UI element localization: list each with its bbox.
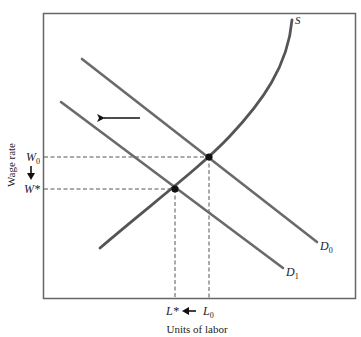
plot-frame [44, 14, 356, 299]
equilibrium-point-new [171, 185, 178, 192]
d0-label: D0 [319, 239, 333, 255]
wstar-tick-label: W* [24, 182, 40, 196]
x-axis-title: Units of labor [166, 323, 227, 335]
demand-curve-d1 [61, 102, 283, 268]
d0-label-main: D [319, 239, 329, 253]
d1-label-main: D [285, 265, 295, 279]
supply-curve-s [100, 20, 292, 248]
equilibrium-point-initial [205, 153, 212, 160]
w0-label-sub: 0 [36, 157, 40, 166]
d1-label-sub: 1 [295, 272, 299, 281]
w0-tick-label: W0 [26, 150, 40, 166]
l0-tick-label: L0 [202, 304, 214, 320]
lstar-tick-label: L* [165, 304, 179, 318]
labor-left-arrow-icon [182, 307, 196, 315]
d1-label: D1 [285, 265, 299, 281]
labor-market-chart: S D0 D1 Wage rate W0 W* L* L0 Units of l… [0, 0, 361, 337]
d0-label-sub: 0 [329, 246, 333, 255]
demand-curve-d0 [82, 59, 317, 242]
supply-label: S [295, 14, 301, 26]
wage-down-arrow-icon [27, 166, 35, 180]
l0-label-sub: 0 [210, 311, 214, 320]
y-axis-title: Wage rate [5, 143, 17, 187]
